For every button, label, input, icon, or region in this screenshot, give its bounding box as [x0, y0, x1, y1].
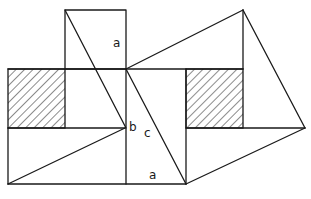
label-c: c [144, 126, 151, 140]
label-bottom-a: a [149, 168, 156, 182]
far-right-slant [243, 10, 305, 128]
pythagoras-diagram: a b c a [0, 0, 311, 199]
upper-right-slant [126, 10, 243, 69]
left-hatched-square [8, 69, 65, 128]
lower-right-slant [186, 128, 305, 184]
label-top-a: a [113, 36, 120, 50]
lower-left-hypotenuse [8, 128, 125, 184]
label-b: b [129, 120, 137, 134]
right-hatched-square [186, 69, 243, 128]
